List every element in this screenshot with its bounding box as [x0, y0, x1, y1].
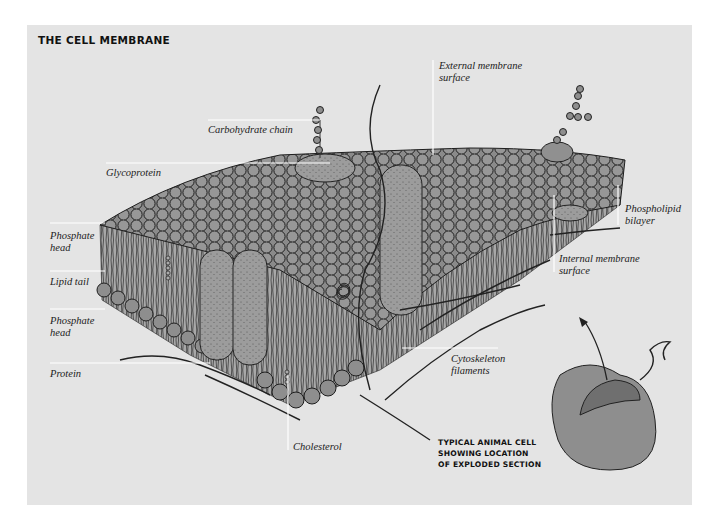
figure-title: THE CELL MEMBRANE	[38, 34, 170, 46]
label-phosphate-head-bottom: Phosphate head	[50, 315, 94, 339]
label-phospholipid-bilayer: Phospholipid bilayer	[625, 203, 681, 227]
label-glycoprotein: Glycoprotein	[106, 167, 161, 179]
label-lipid-tail: Lipid tail	[50, 276, 89, 288]
label-cytoskeleton-filaments: Cytoskeleton filaments	[451, 353, 505, 377]
label-carbohydrate-chain: Carbohydrate chain	[208, 124, 293, 136]
label-cholesterol: Cholesterol	[293, 441, 342, 453]
label-phosphate-head-top: Phosphate head	[50, 230, 94, 254]
inset-animal-cell	[552, 317, 670, 470]
label-external-membrane-surface: External membrane surface	[439, 60, 522, 84]
label-protein: Protein	[50, 368, 81, 380]
inset-caption: TYPICAL ANIMAL CELL SHOWING LOCATION OF …	[438, 437, 541, 470]
glycoprotein-shape	[295, 154, 355, 182]
label-internal-membrane-surface: Internal membrane surface	[559, 253, 640, 277]
